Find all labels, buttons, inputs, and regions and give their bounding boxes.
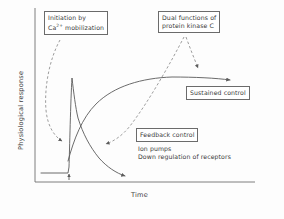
annotation-initiation-line1: Initiation by — [48, 14, 86, 21]
annotation-feedback-detail: Ion pumps Down regulation of receptors — [138, 145, 231, 162]
annotation-initiation-line2: Ca2+ mobilization — [48, 22, 104, 32]
arrow-initiation-dashed — [46, 40, 62, 141]
annotation-dual-functions-box: Dual functions of protein kinase C — [158, 11, 220, 33]
curve-calcium-spike — [41, 78, 125, 176]
y-axis-label: Physiological response — [17, 71, 25, 150]
annotation-feedback-control-box: Feedback control — [136, 128, 198, 142]
annotation-sustained-control-box: Sustained control — [186, 86, 250, 100]
annotation-dual-functions-line2: protein kinase C — [162, 22, 216, 30]
x-axis-label: Time — [131, 191, 148, 199]
figure-canvas: Physiological response Time Initiation b… — [0, 0, 284, 219]
annotation-feedback-detail-line1: Ion pumps — [138, 145, 171, 152]
annotation-feedback-detail-line2: Down regulation of receptors — [138, 153, 231, 161]
annotation-initiation-line2-suffix: mobilization — [63, 24, 104, 31]
annotation-feedback-control-label: Feedback control — [140, 131, 194, 138]
annotation-dual-functions-line1: Dual functions of — [162, 14, 216, 21]
annotation-sustained-control-label: Sustained control — [190, 89, 246, 96]
plot-graphics — [0, 0, 284, 219]
annotation-initiation-charge: 2+ — [56, 23, 63, 28]
annotation-initiation-box: Initiation by Ca2+ mobilization — [44, 11, 108, 35]
arrow-dual-right-dashed — [186, 37, 198, 68]
